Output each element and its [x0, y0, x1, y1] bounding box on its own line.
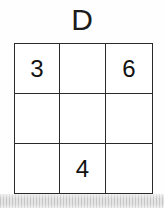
grid-row: 4	[15, 144, 153, 194]
grid-cell-r2c2[interactable]	[106, 144, 153, 194]
grid-cell-value: 4	[60, 145, 105, 192]
grid-cell-value: 3	[15, 45, 59, 92]
grid-row: 3 6	[15, 44, 153, 94]
grid-cell-r0c0[interactable]: 3	[15, 44, 60, 94]
grid-cell-r1c0[interactable]	[15, 94, 60, 144]
scanner-artifact-band	[0, 194, 164, 208]
grid-cell-r0c1[interactable]	[60, 44, 106, 94]
grid-cell-r2c1[interactable]: 4	[60, 144, 106, 194]
grid-cell-r1c1[interactable]	[60, 94, 106, 144]
grid-cell-r1c2[interactable]	[106, 94, 153, 144]
number-grid-figure: D 3 6 4	[0, 0, 164, 208]
grid-row	[15, 94, 153, 144]
grid-cell-value: 6	[106, 45, 152, 92]
grid-cell-r2c0[interactable]	[15, 144, 60, 194]
figure-title: D	[0, 4, 164, 36]
number-grid: 3 6 4	[14, 43, 153, 194]
grid-cell-r0c2[interactable]: 6	[106, 44, 153, 94]
